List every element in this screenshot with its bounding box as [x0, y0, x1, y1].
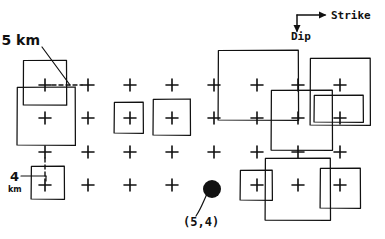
grid-plus [124, 179, 136, 191]
grid-plus [39, 79, 51, 91]
grid-plus [39, 179, 51, 191]
grid-plus [166, 146, 178, 158]
grid-plus [166, 79, 178, 91]
grid-plus [166, 179, 178, 191]
scale-top-label: 5 km [1, 32, 40, 48]
grid-plus [208, 146, 220, 158]
grid-plus [124, 79, 136, 91]
hypocenter-label: (5,4) [183, 215, 219, 229]
grid-plus [82, 146, 94, 158]
subfault-rect-r5 [31, 166, 64, 199]
fault-plane-diagram: 5 km 4 km Strike Dip (5,4) [0, 0, 385, 239]
subfault-grid-markers [39, 79, 346, 191]
grid-plus [292, 179, 304, 191]
grid-plus [292, 146, 304, 158]
grid-plus [39, 146, 51, 158]
grid-plus [82, 179, 94, 191]
grid-plus [82, 79, 94, 91]
dip-axis-label: Dip [291, 30, 311, 43]
dashed-measures [45, 85, 82, 179]
grid-plus [39, 112, 51, 124]
grid-plus [124, 112, 136, 124]
hypocenter-dot [203, 180, 221, 198]
grid-plus [334, 79, 346, 91]
grid-plus [251, 112, 263, 124]
grid-plus [251, 146, 263, 158]
grid-plus [251, 79, 263, 91]
grid-plus [166, 112, 178, 124]
hypocenter-leader [196, 194, 207, 216]
scale-top-leader [42, 47, 70, 85]
grid-plus [124, 146, 136, 158]
grid-plus [251, 179, 263, 191]
grid-plus [82, 112, 94, 124]
scale-left-value-label: 4 [10, 169, 19, 184]
strike-axis-label: Strike [331, 9, 371, 22]
scale-left-unit-label: km [8, 185, 22, 194]
strike-arrowhead [319, 12, 327, 19]
grid-plus [334, 179, 346, 191]
diagram-canvas: 5 km 4 km Strike Dip (5,4) [0, 0, 385, 239]
subfault-rectangles [17, 50, 370, 220]
grid-plus [334, 146, 346, 158]
